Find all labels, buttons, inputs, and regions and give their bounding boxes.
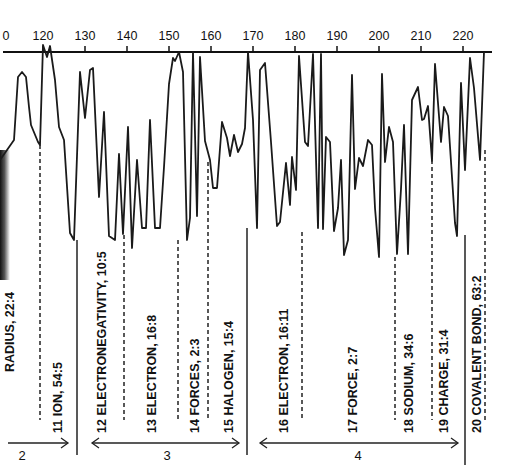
segment-label: 13 ELECTRON, 16:8	[145, 315, 159, 433]
tick-label: 120	[33, 29, 54, 43]
tick-label: 220	[453, 29, 474, 43]
segment-label: 15 HALOGEN, 15:4	[222, 321, 236, 433]
segment-label: 14 FORCES, 2:3	[188, 338, 202, 433]
tick-label: 180	[285, 29, 306, 43]
segment-label: 16 ELECTRON, 16:11	[277, 309, 291, 433]
tick-label: 170	[243, 29, 264, 43]
segment-labels: 11 ION, 54:512 ELECTRONEGATIVITY, 10:513…	[3, 251, 484, 433]
segment-label: 19 CHARGE, 31:4	[437, 329, 451, 433]
tick-label: 190	[327, 29, 348, 43]
tick-label: 200	[369, 29, 390, 43]
tick-label: 130	[75, 29, 96, 43]
tick-label: 150	[159, 29, 180, 43]
chart: 0120130140150160170180190200210220 11 IO…	[0, 0, 523, 469]
section-arrows: 234	[8, 438, 458, 463]
section-label: 3	[163, 448, 170, 463]
data-line	[0, 45, 484, 257]
tick-label: 0	[3, 29, 10, 43]
segment-label: 12 ELECTRONEGATIVITY, 10:5	[95, 251, 109, 433]
partial-segment-label: RADIUS, 22:4	[3, 292, 17, 372]
segment-label: 20 COVALENT BOND, 63:2	[470, 276, 484, 433]
tick-label: 160	[201, 29, 222, 43]
tick-label: 140	[117, 29, 138, 43]
segment-label: 17 FORCE, 2:7	[346, 347, 360, 433]
section-label: 2	[18, 448, 25, 463]
segment-label: 11 ION, 54:5	[51, 362, 65, 433]
tick-label: 210	[411, 29, 432, 43]
x-axis-ticks: 0120130140150160170180190200210220	[3, 29, 474, 52]
section-label: 4	[354, 448, 361, 463]
segment-label: 18 SODIUM, 34:6	[402, 334, 416, 433]
